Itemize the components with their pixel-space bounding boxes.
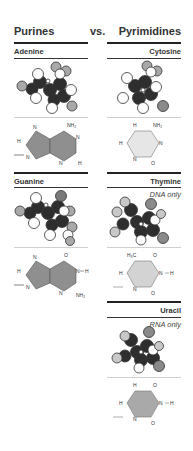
- uracil-separator: [107, 377, 181, 378]
- svg-text:H: H: [119, 140, 123, 146]
- guanine-label-rule: [14, 187, 88, 188]
- svg-text:NH₂: NH₂: [67, 122, 76, 128]
- svg-text:N: N: [133, 416, 137, 422]
- cytosine-separator: [107, 117, 181, 118]
- thymine-end-rule: [107, 301, 181, 303]
- svg-text:N: N: [76, 134, 80, 140]
- guanine-label: Guanine: [14, 177, 44, 186]
- purines-heading-rule: [14, 42, 88, 44]
- cytosine-space-filling-model: [107, 60, 181, 114]
- svg-text:H: H: [170, 270, 174, 276]
- svg-text:H: H: [133, 382, 137, 388]
- svg-text:NH₂: NH₂: [153, 122, 162, 128]
- svg-text:N: N: [159, 400, 163, 406]
- svg-text:H: H: [170, 400, 174, 406]
- svg-text:N: N: [33, 124, 37, 130]
- cytosine-end-rule: [107, 172, 181, 174]
- adenine-separator: [14, 117, 88, 118]
- cytosine-label: Cytosine: [149, 47, 181, 56]
- svg-text:NH₂: NH₂: [76, 292, 85, 298]
- svg-text:O: O: [153, 252, 157, 258]
- uracil-label: Uracil: [160, 306, 181, 315]
- thymine-structural-formula: H₃C O H N H N O: [107, 249, 181, 301]
- cytosine-structural-formula: H NH₂ H N N O: [107, 119, 181, 171]
- svg-text:N: N: [76, 268, 80, 274]
- adenine-end-rule: [14, 172, 88, 174]
- svg-text:N: N: [133, 156, 137, 162]
- svg-text:N: N: [26, 284, 30, 290]
- adenine-space-filling-model: [14, 60, 88, 114]
- svg-text:H: H: [17, 268, 21, 274]
- guanine-structural-formula: N H N O N H N NH₂: [12, 249, 90, 301]
- svg-text:H: H: [133, 122, 137, 128]
- svg-text:H: H: [119, 270, 123, 276]
- thymine-space-filling-model: [107, 196, 181, 246]
- pyrimidines-heading-rule: [107, 42, 181, 44]
- svg-text:O: O: [151, 420, 155, 426]
- svg-text:O: O: [151, 160, 155, 166]
- uracil-label-rule: [107, 317, 181, 318]
- adenine-label: Adenine: [14, 47, 44, 56]
- vs-label: vs.: [90, 25, 105, 37]
- svg-text:H: H: [17, 138, 21, 144]
- svg-text:N: N: [133, 286, 137, 292]
- uracil-structural-formula: H O H N H N O: [107, 379, 181, 431]
- svg-text:N: N: [59, 290, 63, 296]
- svg-text:N: N: [59, 160, 63, 166]
- adenine-label-rule: [14, 58, 88, 59]
- svg-text:O: O: [64, 252, 68, 258]
- svg-text:H: H: [119, 400, 123, 406]
- pyrimidines-heading: Pyrimidines: [119, 25, 181, 37]
- svg-text:N: N: [159, 270, 163, 276]
- svg-text:O: O: [151, 290, 155, 296]
- thymine-label: Thymine: [150, 177, 181, 186]
- svg-text:O: O: [153, 382, 157, 388]
- svg-text:H₃C: H₃C: [127, 252, 137, 258]
- thymine-label-rule: [107, 187, 181, 188]
- uracil-space-filling-model: [107, 326, 181, 374]
- guanine-space-filling-model: [14, 189, 88, 245]
- svg-text:H: H: [78, 160, 82, 166]
- cytosine-label-rule: [107, 58, 181, 59]
- svg-text:H: H: [85, 268, 89, 274]
- purines-heading: Purines: [14, 25, 54, 37]
- svg-text:N: N: [33, 254, 37, 260]
- guanine-separator: [14, 247, 88, 248]
- svg-text:N: N: [159, 140, 163, 146]
- svg-text:N: N: [26, 154, 30, 160]
- adenine-structural-formula: N H N NH₂ N N H: [12, 119, 90, 171]
- thymine-separator: [107, 247, 181, 248]
